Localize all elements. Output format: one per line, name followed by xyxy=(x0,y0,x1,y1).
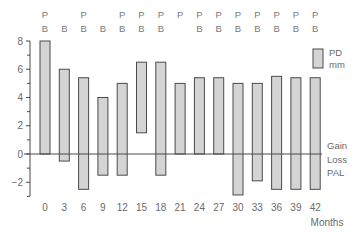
y-tick-label: 6 xyxy=(17,64,23,75)
marker-p: P xyxy=(177,9,183,20)
marker-b: B xyxy=(293,23,299,34)
legend-box-label-line2: mm xyxy=(329,59,345,70)
x-tick-label: 15 xyxy=(136,202,148,213)
x-tick-label: 27 xyxy=(213,202,225,213)
bar-month-27 xyxy=(214,78,224,154)
bar-month-24 xyxy=(194,78,204,154)
marker-p: P xyxy=(196,9,202,20)
marker-p: P xyxy=(158,9,164,20)
bar-month-18 xyxy=(156,62,166,175)
x-tick-label: 39 xyxy=(290,202,302,213)
y-tick-label: 4 xyxy=(17,92,23,103)
y-axis: −202468 xyxy=(12,36,30,197)
x-tick-label: 6 xyxy=(81,202,87,213)
top-pb-markers: PBBPBBPBPBPBPPBPBPBPBPBPBPB xyxy=(42,9,319,34)
bar-month-39 xyxy=(291,78,301,190)
bar-month-6 xyxy=(79,78,89,190)
bar-month-15 xyxy=(137,62,147,133)
x-tick-label: 0 xyxy=(42,202,48,213)
legend-gain-label: Gain xyxy=(327,140,347,151)
x-tick-label: 33 xyxy=(252,202,264,213)
x-tick-label: 3 xyxy=(62,202,68,213)
x-tick-label: 21 xyxy=(175,202,187,213)
x-tick-label: 42 xyxy=(310,202,322,213)
marker-p: P xyxy=(254,9,260,20)
marker-b: B xyxy=(196,23,202,34)
pd-pal-bar-chart: −202468 PBBPBBPBPBPBPPBPBPBPBPBPBPB 0369… xyxy=(0,0,353,237)
marker-b: B xyxy=(312,23,318,34)
x-tick-label: 9 xyxy=(100,202,106,213)
x-axis-labels: 03691215182124273033363942Months xyxy=(42,202,343,228)
marker-b: B xyxy=(158,23,164,34)
legend-pal-label: PAL xyxy=(327,167,344,178)
marker-b: B xyxy=(254,23,260,34)
y-tick-label: 0 xyxy=(17,149,23,160)
marker-p: P xyxy=(273,9,279,20)
y-tick-label: −2 xyxy=(12,177,24,188)
x-tick-label: 24 xyxy=(194,202,206,213)
marker-b: B xyxy=(119,23,125,34)
bar-month-33 xyxy=(252,83,262,180)
x-axis-title: Months xyxy=(311,217,344,228)
marker-p: P xyxy=(312,9,318,20)
bar-month-42 xyxy=(310,78,320,190)
marker-p: P xyxy=(138,9,144,20)
marker-b: B xyxy=(273,23,279,34)
marker-b: B xyxy=(216,23,222,34)
y-tick-label: 8 xyxy=(17,36,23,47)
marker-b: B xyxy=(138,23,144,34)
marker-b: B xyxy=(100,23,106,34)
legend-swatch xyxy=(313,49,323,68)
marker-b: B xyxy=(80,23,86,34)
marker-p: P xyxy=(119,9,125,20)
x-tick-label: 36 xyxy=(271,202,283,213)
bar-month-12 xyxy=(117,83,127,175)
legend-loss-label: Loss xyxy=(327,154,347,165)
bar-month-30 xyxy=(233,83,243,195)
bar-month-21 xyxy=(175,83,185,154)
x-tick-label: 30 xyxy=(232,202,244,213)
legend-box-label-line1: PD xyxy=(329,47,342,58)
marker-p: P xyxy=(293,9,299,20)
marker-p: P xyxy=(216,9,222,20)
marker-b: B xyxy=(235,23,241,34)
marker-p: P xyxy=(80,9,86,20)
y-tick-label: 2 xyxy=(17,120,23,131)
marker-p: P xyxy=(42,9,48,20)
marker-b: B xyxy=(61,23,67,34)
bars xyxy=(40,41,320,195)
marker-p: P xyxy=(235,9,241,20)
bar-month-3 xyxy=(59,69,69,161)
x-tick-label: 12 xyxy=(117,202,129,213)
bar-month-36 xyxy=(272,76,282,189)
bar-month-9 xyxy=(98,98,108,176)
marker-b: B xyxy=(42,23,48,34)
x-tick-label: 18 xyxy=(155,202,167,213)
bar-month-0 xyxy=(40,41,50,154)
